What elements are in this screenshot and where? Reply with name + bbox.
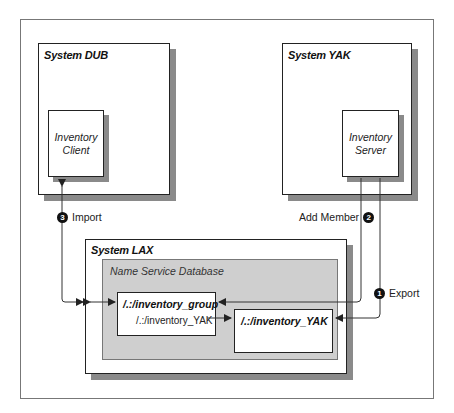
import-connector <box>62 186 83 302</box>
step-2-badge: 2 <box>363 212 374 223</box>
connector-lines <box>0 0 454 413</box>
add-member-connector <box>219 178 361 302</box>
step-3-badge: 3 <box>57 212 68 223</box>
step-add-member-text: Add Member <box>299 211 359 223</box>
step-add-member-label: Add Member 2 <box>299 211 374 223</box>
step-export-label: 1 Export <box>374 287 419 299</box>
step-export-text: Export <box>389 287 419 299</box>
step-import-label: 3 Import <box>57 211 102 223</box>
step-import-text: Import <box>72 211 102 223</box>
step-1-badge: 1 <box>374 288 385 299</box>
